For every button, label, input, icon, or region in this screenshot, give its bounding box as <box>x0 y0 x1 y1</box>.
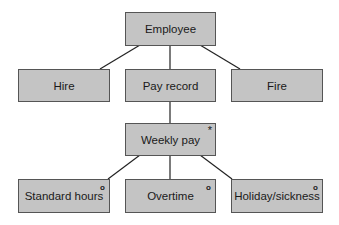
node-standard-hours: Standard hours o <box>18 179 110 213</box>
node-pay-record: Pay record <box>125 69 216 102</box>
node-label: Fire <box>267 80 287 92</box>
iteration-marker-icon: * <box>208 125 212 136</box>
selection-marker-icon: o <box>313 182 318 193</box>
node-label: Standard hours <box>25 190 104 202</box>
edge-weeklypay-holiday <box>200 155 232 179</box>
node-holiday-sickness: Holiday/sickness o <box>231 179 323 213</box>
node-hire: Hire <box>18 69 110 102</box>
node-employee: Employee <box>125 12 216 46</box>
selection-marker-icon: o <box>100 182 105 193</box>
node-label: Pay record <box>143 80 199 92</box>
node-overtime: Overtime o <box>125 179 216 213</box>
edge-weeklypay-standard <box>108 155 140 179</box>
node-weekly-pay: Weekly pay * <box>125 123 216 156</box>
node-label: Hire <box>53 80 74 92</box>
selection-marker-icon: o <box>206 182 211 193</box>
node-label: Overtime <box>147 190 194 202</box>
node-label: Weekly pay <box>141 134 200 146</box>
node-fire: Fire <box>231 69 323 102</box>
node-label: Employee <box>145 23 196 35</box>
edge-employee-fire <box>200 45 240 69</box>
node-label: Holiday/sickness <box>234 190 320 202</box>
edge-employee-hire <box>100 45 140 69</box>
